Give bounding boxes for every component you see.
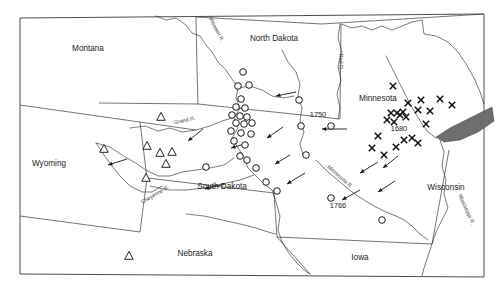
migration-direction-arrow	[108, 159, 127, 166]
migration-direction-arrow	[275, 155, 290, 164]
circle-site-marker	[379, 217, 386, 224]
date-label-1750: 1750	[310, 110, 326, 119]
state-label-wyoming: Wyoming	[32, 159, 66, 168]
circle-marker-layer	[203, 69, 386, 224]
state-label-montana: Montana	[72, 44, 104, 53]
triangle-site-marker	[100, 144, 108, 152]
date-label-1766: 1766	[330, 201, 346, 210]
circle-site-marker	[231, 138, 238, 145]
migration-direction-arrow	[322, 127, 347, 131]
circle-site-marker	[253, 165, 260, 172]
political-boundaries	[20, 14, 484, 274]
x-cross-site-marker	[449, 102, 455, 108]
circle-site-marker	[237, 113, 244, 120]
lake-pepin-water-body	[436, 107, 494, 142]
circle-site-marker	[298, 123, 305, 130]
state-label-nebraska: Nebraska	[177, 249, 212, 258]
map-frame	[20, 14, 484, 277]
circle-site-marker	[228, 128, 235, 135]
x-cross-site-marker	[369, 145, 375, 151]
circle-site-marker	[296, 97, 303, 104]
x-cross-site-marker	[393, 144, 399, 150]
state-label-wisconsin: Wisconsin	[427, 183, 465, 192]
migration-direction-arrow	[383, 156, 398, 168]
circle-site-marker	[229, 112, 236, 119]
circle-site-marker	[244, 157, 251, 164]
circle-site-marker	[233, 104, 240, 111]
x-cross-site-marker	[397, 112, 403, 118]
state-label-north-dakota: North Dakota	[250, 34, 299, 43]
state-label-layer: MontanaNorth DakotaMinnesotaWyomingSouth…	[32, 34, 465, 262]
circle-site-marker	[263, 179, 270, 186]
x-cross-site-marker	[388, 110, 394, 116]
circle-site-marker	[242, 105, 249, 112]
triangle-site-marker	[125, 251, 133, 259]
state-label-minnesota: Minnesota	[359, 94, 397, 103]
circle-site-marker	[248, 131, 255, 138]
x-cross-site-marker	[405, 100, 411, 106]
circle-site-marker	[274, 188, 281, 195]
x-cross-site-marker	[423, 121, 429, 127]
x-cross-site-marker	[437, 96, 443, 102]
x-cross-site-marker	[375, 133, 381, 139]
migration-direction-arrow	[287, 173, 305, 184]
map-figure: MontanaNorth DakotaMinnesotaWyomingSouth…	[0, 0, 502, 288]
circle-site-marker	[246, 82, 253, 89]
x-cross-site-marker	[409, 135, 415, 141]
river-label-grand-r: Grand R.	[173, 115, 196, 125]
date-label-1680: 1680	[391, 124, 407, 133]
migration-direction-arrow	[360, 162, 378, 173]
circle-site-marker	[233, 120, 240, 127]
migration-direction-arrow	[378, 181, 395, 192]
triangle-site-marker	[143, 141, 151, 149]
river-network	[96, 16, 484, 276]
triangle-site-marker	[157, 112, 165, 120]
triangle-site-marker	[168, 147, 176, 155]
circle-site-marker	[241, 121, 248, 128]
circle-site-marker	[240, 69, 247, 76]
state-label-south-dakota: South Dakota	[197, 182, 247, 191]
triangle-site-marker	[142, 173, 150, 181]
circle-site-marker	[328, 123, 335, 130]
x-cross-site-marker	[390, 83, 396, 89]
river-label-layer: Missouri R.Grand R.Cheyenne R.Red R.Minn…	[140, 16, 476, 226]
circle-site-marker	[235, 83, 242, 90]
x-cross-site-marker	[415, 107, 421, 113]
circle-site-marker	[237, 153, 244, 160]
circle-site-marker	[303, 152, 310, 159]
circle-site-marker	[249, 120, 256, 127]
river-label-red-r: Red R.	[338, 54, 344, 71]
map-canvas: MontanaNorth DakotaMinnesotaWyomingSouth…	[0, 0, 502, 288]
circle-site-marker	[244, 114, 251, 121]
river-label-missouri-r: Missouri R.	[208, 16, 226, 43]
x-cross-site-marker	[415, 140, 421, 146]
circle-site-marker	[238, 130, 245, 137]
circle-site-marker	[238, 96, 245, 103]
x-cross-site-marker	[381, 152, 387, 158]
x-cross-site-marker	[401, 137, 407, 143]
state-label-iowa: Iowa	[351, 253, 369, 262]
circle-site-marker	[242, 142, 249, 149]
migration-direction-arrow	[267, 127, 283, 138]
river-label-minnesota-r: Minnesota R.	[326, 164, 354, 189]
x-cross-site-marker	[418, 97, 424, 103]
x-cross-site-marker	[384, 117, 390, 123]
river-label-mississippi-r: Mississippi R.	[457, 193, 476, 226]
triangle-site-marker	[156, 148, 164, 156]
circle-site-marker	[203, 164, 210, 171]
x-cross-site-marker	[427, 108, 433, 114]
triangle-site-marker	[162, 159, 170, 167]
